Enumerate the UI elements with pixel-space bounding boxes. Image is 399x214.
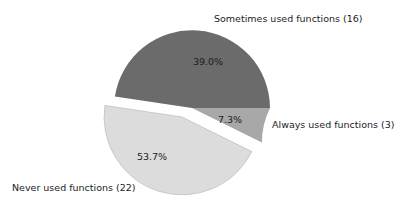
pie-label-always-used-functions: Always used functions (3) bbox=[272, 120, 394, 130]
pie-label-sometimes-used-functions: Sometimes used functions (16) bbox=[214, 14, 363, 24]
pie-chart: 39.0% 7.3% 53.7% Sometimes used function… bbox=[0, 0, 399, 214]
pie-label-never-used-functions: Never used functions (22) bbox=[12, 183, 136, 193]
pie-slice-value-always: 7.3% bbox=[218, 114, 242, 125]
pie-slice-value-never: 53.7% bbox=[137, 151, 167, 162]
pie-slice-sometimes-used-functions[interactable] bbox=[115, 30, 270, 108]
pie-slice-value-sometimes: 39.0% bbox=[193, 56, 223, 67]
